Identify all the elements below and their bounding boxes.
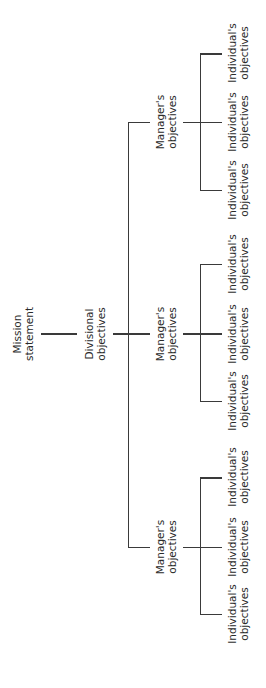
individual-label-line1: Individual's <box>226 92 238 152</box>
manager-1-line2: objectives <box>166 95 178 149</box>
divisional-objectives-line2: objectives <box>95 307 107 360</box>
individual-label-line1: Individual's <box>226 304 238 364</box>
connector-individual-1-1 <box>200 53 222 55</box>
connector-manager-3-vertical <box>200 477 202 615</box>
individual-label-line2: objectives <box>238 234 250 294</box>
connector-individual-1-3 <box>200 190 222 192</box>
individual-label-line2: objectives <box>238 371 250 431</box>
individual-label-line1: Individual's <box>226 23 238 83</box>
individual-label-line1: Individual's <box>226 160 238 220</box>
connector-manager-1-vertical <box>200 53 202 191</box>
mission-statement-line2: statement <box>23 307 35 361</box>
manager-3-line1: Manager's <box>154 520 166 574</box>
connector-trunk-manager-3 <box>128 547 150 549</box>
connector-trunk-manager-2 <box>128 333 150 335</box>
individual-label-line2: objectives <box>238 23 250 83</box>
individual-label-line2: objectives <box>238 92 250 152</box>
individual-label-line1: Individual's <box>226 584 238 644</box>
mission-statement-line1: Mission <box>11 307 23 361</box>
connector-individual-2-1 <box>200 264 222 266</box>
individual-label-line2: objectives <box>238 517 250 577</box>
connector-manager-1-bracket <box>183 122 222 124</box>
divisional-objectives-line1: Divisional <box>83 307 95 360</box>
manager-1-line1: Manager's <box>154 95 166 149</box>
manager-2-line1: Manager's <box>154 307 166 361</box>
connector-trunk-manager-1 <box>128 122 150 124</box>
individual-label-line2: objectives <box>238 584 250 644</box>
connector-individual-3-3 <box>200 614 222 616</box>
connector-individual-2-3 <box>200 401 222 403</box>
connector-individual-3-1 <box>200 477 222 479</box>
connector-manager-2-bracket <box>183 333 222 335</box>
connector-manager-3-bracket <box>183 547 222 549</box>
individual-label-line2: objectives <box>238 447 250 507</box>
individual-label-line2: objectives <box>238 304 250 364</box>
individual-label-line2: objectives <box>238 160 250 220</box>
connector-mission-division <box>41 333 77 335</box>
individual-label-line1: Individual's <box>226 517 238 577</box>
individual-label-line1: Individual's <box>226 234 238 294</box>
individual-label-line1: Individual's <box>226 447 238 507</box>
manager-3-line2: objectives <box>166 520 178 574</box>
connector-manager-2-vertical <box>200 264 202 402</box>
individual-label-line1: Individual's <box>226 371 238 431</box>
manager-2-line2: objectives <box>166 307 178 361</box>
